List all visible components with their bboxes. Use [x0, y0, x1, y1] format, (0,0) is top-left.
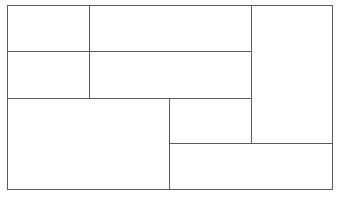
layout-panel-8	[169, 143, 333, 190]
layout-panel-label	[170, 99, 251, 143]
layout-panel-3	[7, 51, 90, 99]
layout-panel-label	[8, 52, 89, 98]
layout-panel-label	[170, 144, 332, 189]
layout-panel-label	[90, 6, 251, 51]
panel-layout-diagram	[0, 0, 340, 200]
layout-panel-2	[89, 5, 252, 52]
layout-panel-4	[89, 51, 252, 99]
layout-panel-label	[8, 6, 89, 51]
layout-panel-6	[7, 98, 170, 190]
layout-panel-label	[8, 99, 169, 189]
layout-panel-1	[7, 5, 90, 52]
layout-panel-7	[169, 98, 252, 144]
layout-panel-label	[90, 52, 251, 98]
diagram-canvas	[0, 0, 340, 200]
layout-panel-5	[251, 5, 333, 144]
layout-panel-label	[252, 6, 332, 143]
